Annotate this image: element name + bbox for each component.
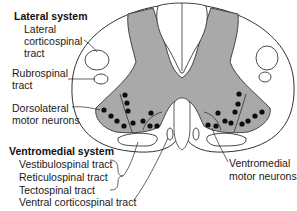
label-rubrospinal-line1: Rubrospinal bbox=[12, 67, 68, 80]
ventral-median-fissure bbox=[174, 98, 190, 150]
label-dorsolateral-line2: motor neurons bbox=[12, 114, 80, 127]
label-lateral-corticospinal-line1: Lateral bbox=[24, 23, 56, 36]
left-rubrospinal-tract bbox=[94, 74, 108, 84]
label-ventromedial-neurons-line1: Ventromedial bbox=[229, 157, 290, 170]
label-reticulospinal: Reticulospinal tract bbox=[19, 171, 108, 184]
label-lateral-corticospinal-line2: corticospinal bbox=[24, 35, 82, 48]
label-rubrospinal-line2: tract bbox=[12, 79, 32, 92]
label-ventromedial-neurons-line2: motor neurons bbox=[229, 170, 297, 183]
label-dorsolateral-line1: Dorsolateral bbox=[12, 102, 69, 115]
ventromedial-system-heading: Ventromedial system bbox=[9, 145, 114, 158]
right-ventral-corticospinal-tract bbox=[193, 128, 199, 140]
right-lateral-corticospinal-tract bbox=[256, 46, 278, 70]
right-ventral-tract bbox=[207, 133, 246, 146]
label-lateral-corticospinal-line3: tract bbox=[24, 47, 44, 60]
label-tectospinal: Tectospinal tract bbox=[19, 184, 95, 197]
right-rubrospinal-tract bbox=[259, 72, 271, 82]
left-lateral-corticospinal-tract bbox=[85, 50, 109, 70]
lateral-system-heading: Lateral system bbox=[14, 10, 88, 23]
label-ventral-corticospinal: Ventral corticospinal tract bbox=[19, 196, 136, 209]
label-vestibulospinal: Vestibulospinal tract bbox=[19, 158, 112, 171]
